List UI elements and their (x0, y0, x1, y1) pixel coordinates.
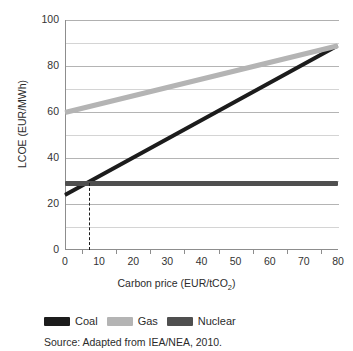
legend-item-gas: Gas (107, 316, 158, 327)
y-tick-label-100: 100 (33, 13, 59, 25)
gridline-y-50 (66, 135, 339, 136)
gridline-y-70 (66, 89, 339, 90)
x-axis-title-tail: ) (232, 277, 236, 289)
crossover-dashed-line (89, 183, 90, 250)
gridline-y-10 (66, 227, 339, 228)
x-tick-mark-45 (219, 250, 220, 254)
x-tick-label-60: 60 (255, 255, 285, 267)
x-tick-mark-25 (150, 250, 151, 254)
x-tick-label-0: 0 (50, 255, 80, 267)
x-tick-label-10: 10 (84, 255, 114, 267)
legend-label-coal: Coal (75, 316, 98, 327)
legend-item-coal: Coal (44, 316, 98, 327)
gridline-y-20 (66, 204, 339, 205)
legend-item-nuclear: Nuclear (167, 316, 236, 327)
y-tick-label-60: 60 (33, 105, 59, 117)
y-tick-label-0: 0 (33, 243, 59, 255)
gridline-y-100 (66, 20, 339, 21)
chart-figure: LCOE (EUR/MWh) Carbon price (EUR/tCO2) C… (0, 0, 353, 351)
series-line-nuclear (65, 181, 338, 186)
gridline-y-90 (66, 43, 339, 44)
source-note: Source: Adapted from IEA/NEA, 2010. (44, 336, 222, 348)
x-tick-mark-15 (116, 250, 117, 254)
legend-swatch-coal (44, 317, 70, 326)
gridline-y-60 (66, 112, 339, 113)
legend-swatch-gas (107, 317, 133, 326)
x-tick-mark-35 (184, 250, 185, 254)
y-tick-label-20: 20 (33, 197, 59, 209)
y-tick-label-80: 80 (33, 59, 59, 71)
x-tick-label-30: 30 (152, 255, 182, 267)
x-tick-label-70: 70 (289, 255, 319, 267)
legend-label-nuclear: Nuclear (198, 316, 236, 327)
x-tick-mark-55 (253, 250, 254, 254)
x-tick-label-40: 40 (187, 255, 217, 267)
y-axis-title: LCOE (EUR/MWh) (16, 49, 28, 199)
x-tick-mark-5 (82, 250, 83, 254)
chart-legend: Coal Gas Nuclear (44, 316, 236, 327)
gridline-y-40 (66, 158, 339, 159)
x-tick-mark-65 (287, 250, 288, 254)
y-tick-label-40: 40 (33, 151, 59, 163)
legend-swatch-nuclear (167, 317, 193, 326)
chart-title (0, 0, 353, 3)
x-tick-label-50: 50 (221, 255, 251, 267)
x-tick-label-20: 20 (118, 255, 148, 267)
x-tick-mark-75 (321, 250, 322, 254)
x-axis-title-main: Carbon price (EUR/tCO (118, 277, 228, 289)
legend-label-gas: Gas (138, 316, 158, 327)
x-tick-label-80: 80 (323, 255, 353, 267)
x-axis-title: Carbon price (EUR/tCO2) (0, 277, 353, 292)
